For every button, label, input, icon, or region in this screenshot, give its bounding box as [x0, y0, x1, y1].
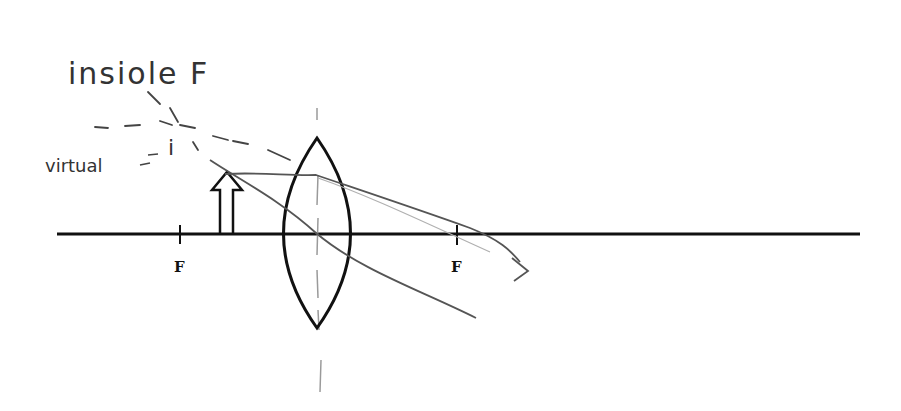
lens-center-line [317, 108, 321, 392]
object-arrow [212, 172, 242, 233]
annotation-image-mark: i [168, 135, 174, 160]
annotation-inside-f: insiole F [68, 56, 209, 91]
focal-label-right: F [451, 258, 462, 276]
focal-label-left: F [174, 258, 185, 276]
virtual-ray-extensions [95, 92, 290, 160]
ray-parallel [225, 173, 520, 262]
annotation-equals-mark [140, 154, 158, 165]
lens-diagram: F F insiole F virtual i [0, 0, 901, 411]
annotation-virtual: virtual [45, 155, 103, 176]
